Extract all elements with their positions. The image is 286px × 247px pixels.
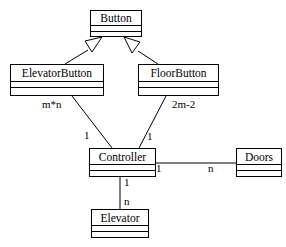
uml-class-doors[interactable]: Doors xyxy=(236,148,282,177)
multiplicity-label-floorbutton-controller-end: 1 xyxy=(147,131,153,142)
multiplicity-label-elevatorbutton-controller-end: 1 xyxy=(84,130,90,141)
uml-class-floorbutton[interactable]: FloorButton xyxy=(138,64,219,96)
class-name-doors: Doors xyxy=(237,149,281,165)
class-operations-compartment-controller xyxy=(90,171,155,177)
multiplicity-label-controller-doors-near: 1 xyxy=(156,163,162,174)
multiplicity-label-controller-doors-far: n xyxy=(208,163,214,174)
generalization-elevatorbutton-to-button xyxy=(65,37,102,64)
association-elevatorbutton-controller xyxy=(72,96,112,148)
uml-class-diagram: Button ElevatorButton FloorButton Contro… xyxy=(0,0,286,247)
uml-class-button[interactable]: Button xyxy=(90,10,142,37)
hollow-triangle-arrowhead-icon xyxy=(124,37,140,53)
class-name-elevatorbutton: ElevatorButton xyxy=(11,65,103,82)
class-operations-compartment-button xyxy=(91,32,141,38)
association-floorbutton-controller xyxy=(139,96,166,148)
class-name-controller: Controller xyxy=(90,149,155,165)
class-operations-compartment-elevator xyxy=(92,232,148,238)
multiplicity-label-floorbutton-count: 2m-2 xyxy=(172,99,195,110)
uml-class-elevatorbutton[interactable]: ElevatorButton xyxy=(10,64,104,96)
generalization-floorbutton-to-button xyxy=(124,37,158,64)
class-operations-compartment-doors xyxy=(237,171,281,177)
class-name-button: Button xyxy=(91,11,141,26)
uml-class-controller[interactable]: Controller xyxy=(89,148,156,177)
class-name-floorbutton: FloorButton xyxy=(139,65,218,82)
class-operations-compartment-elevatorbutton xyxy=(11,88,103,94)
multiplicity-label-elevatorbutton-count: m*n xyxy=(42,99,62,110)
multiplicity-label-controller-elevator-near: 1 xyxy=(124,177,130,188)
class-operations-compartment-floorbutton xyxy=(139,88,218,94)
multiplicity-label-controller-elevator-far: n xyxy=(124,196,130,207)
class-name-elevator: Elevator xyxy=(92,210,148,226)
uml-class-elevator[interactable]: Elevator xyxy=(91,209,149,238)
